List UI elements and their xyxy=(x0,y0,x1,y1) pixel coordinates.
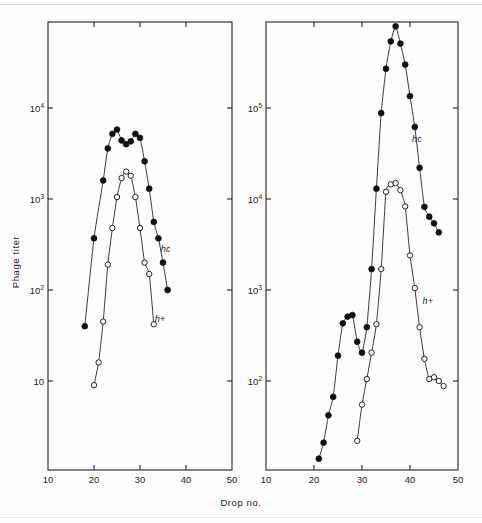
data-point-hc xyxy=(426,214,432,220)
series-line-hc xyxy=(85,129,168,326)
data-point-h+ xyxy=(431,375,436,380)
data-point-hc xyxy=(412,124,418,130)
x-tick-label: 50 xyxy=(227,474,238,485)
data-point-hc xyxy=(407,93,413,99)
data-point-h+ xyxy=(412,285,417,290)
data-point-hc xyxy=(137,135,143,141)
data-point-h+ xyxy=(101,319,106,324)
data-point-hc xyxy=(82,323,88,329)
data-point-hc xyxy=(436,229,442,235)
figure-container: 102030405010102103104hch+ 10203040501021… xyxy=(0,0,482,523)
data-point-h+ xyxy=(441,383,446,388)
data-point-h+ xyxy=(393,180,398,185)
data-point-h+ xyxy=(147,271,152,276)
y-tick-label: 103 xyxy=(248,284,263,296)
data-point-hc xyxy=(402,62,408,68)
data-point-h+ xyxy=(355,438,360,443)
data-point-hc xyxy=(374,186,380,192)
data-point-hc xyxy=(326,412,332,418)
data-point-h+ xyxy=(369,350,374,355)
y-tick-label: 105 xyxy=(248,102,263,114)
x-tick-label: 10 xyxy=(43,474,54,485)
data-point-hc xyxy=(388,38,394,44)
data-point-h+ xyxy=(142,260,147,265)
data-point-hc xyxy=(340,320,346,326)
x-tick-label: 10 xyxy=(261,474,272,485)
data-point-hc xyxy=(393,23,399,29)
right-panel-plot: 1020304050102103104105hch+ xyxy=(248,22,463,485)
data-point-h+ xyxy=(119,175,124,180)
data-point-h+ xyxy=(403,204,408,209)
data-point-hc xyxy=(359,350,365,356)
data-point-hc xyxy=(128,138,134,144)
series-label-h+: h+ xyxy=(422,296,433,306)
data-point-h+ xyxy=(359,402,364,407)
y-tick-label: 103 xyxy=(30,193,45,205)
data-point-h+ xyxy=(114,194,119,199)
x-tick-label: 20 xyxy=(309,474,320,485)
data-point-hc xyxy=(165,287,171,293)
plot-frame xyxy=(48,22,232,470)
left-panel-plot: 102030405010102103104hch+ xyxy=(30,22,237,485)
data-point-hc xyxy=(335,353,341,359)
data-point-h+ xyxy=(128,173,133,178)
series-line-hc xyxy=(319,26,439,458)
data-point-h+ xyxy=(436,378,441,383)
x-tick-label: 30 xyxy=(357,474,368,485)
data-point-hc xyxy=(156,235,162,241)
series-label-hc: hc xyxy=(161,244,171,254)
data-point-hc xyxy=(431,220,437,226)
data-point-h+ xyxy=(417,325,422,330)
data-point-hc xyxy=(330,394,336,400)
y-tick-label: 104 xyxy=(248,193,263,205)
x-tick-label: 50 xyxy=(453,474,464,485)
data-point-hc xyxy=(110,131,116,137)
data-point-h+ xyxy=(407,253,412,258)
data-point-hc xyxy=(354,339,360,345)
data-point-h+ xyxy=(96,360,101,365)
data-point-h+ xyxy=(379,266,384,271)
data-point-hc xyxy=(100,178,106,184)
y-tick-label: 104 xyxy=(30,102,45,114)
data-point-hc xyxy=(398,41,404,47)
x-tick-label: 40 xyxy=(405,474,416,485)
data-point-hc xyxy=(422,204,428,210)
data-point-hc xyxy=(364,324,370,330)
data-point-hc xyxy=(383,66,389,72)
data-point-h+ xyxy=(110,225,115,230)
data-point-h+ xyxy=(383,189,388,194)
data-point-hc xyxy=(160,260,166,266)
x-axis-label: Drop no. xyxy=(220,497,261,508)
data-point-hc xyxy=(369,266,375,272)
data-point-hc xyxy=(151,219,157,225)
data-point-h+ xyxy=(124,169,129,174)
series-line-h+ xyxy=(94,172,154,386)
series-label-hc: hc xyxy=(412,134,422,144)
y-tick-label: 102 xyxy=(248,375,263,387)
data-point-hc xyxy=(105,145,111,151)
data-point-h+ xyxy=(422,356,427,361)
data-point-h+ xyxy=(374,322,379,327)
data-point-hc xyxy=(114,127,120,133)
data-point-hc xyxy=(146,186,152,192)
series-label-h+: h+ xyxy=(155,314,166,324)
y-tick-label: 10 xyxy=(33,376,44,387)
data-point-hc xyxy=(378,110,384,116)
data-point-h+ xyxy=(105,262,110,267)
y-axis-label: Phage titer xyxy=(10,236,21,289)
data-point-hc xyxy=(142,158,148,164)
data-point-hc xyxy=(417,165,423,171)
series-line-h+ xyxy=(357,183,443,441)
y-tick-label: 102 xyxy=(30,284,45,296)
data-point-hc xyxy=(316,456,322,462)
data-point-h+ xyxy=(133,194,138,199)
data-point-hc xyxy=(350,312,356,318)
data-point-hc xyxy=(321,440,327,446)
data-point-h+ xyxy=(364,376,369,381)
x-tick-label: 20 xyxy=(89,474,100,485)
x-tick-label: 40 xyxy=(181,474,192,485)
data-point-h+ xyxy=(137,225,142,230)
x-tick-label: 30 xyxy=(135,474,146,485)
figure-svg: 102030405010102103104hch+ 10203040501021… xyxy=(0,0,482,523)
data-point-h+ xyxy=(91,382,96,387)
